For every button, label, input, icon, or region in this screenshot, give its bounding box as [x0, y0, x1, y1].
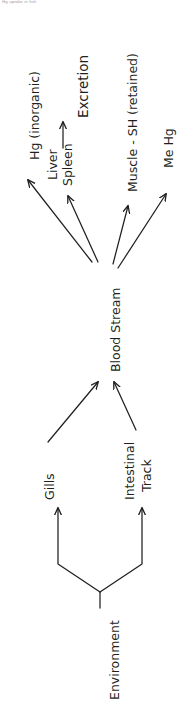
edge-gills-to-blood	[48, 382, 98, 442]
edge-env-to-intestinal	[100, 508, 142, 592]
node-label-blood-stream: Blood Stream	[110, 288, 123, 372]
node-label-liver: Liver	[47, 149, 60, 180]
node-label-spleen: Spleen	[62, 143, 75, 186]
edge-blood-to-liver-spleen	[68, 196, 98, 262]
edge-blood-to-me-hg	[118, 194, 166, 268]
node-label-gills: Gills	[44, 473, 57, 500]
edge-env-to-gills	[58, 508, 100, 592]
node-label-me-hg: Me Hg	[163, 128, 176, 168]
node-label-excretion: Excretion	[77, 55, 91, 118]
edge-blood-to-hg-inorganic	[28, 180, 92, 262]
diagram-canvas: Hg uptake in fish	[0, 0, 189, 704]
node-label-intestinal: Intestinal	[124, 442, 137, 500]
node-label-muscle-sh: Muscle - SH (retained)	[127, 53, 140, 192]
node-label-environment: Environment	[109, 620, 122, 700]
node-label-hg-inorganic: Hg (inorganic)	[29, 71, 42, 160]
node-label-track: Track	[141, 459, 154, 492]
edge-intestinal-to-blood	[114, 382, 136, 430]
